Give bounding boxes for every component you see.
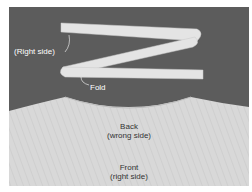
fabric-strip xyxy=(60,23,203,79)
label-fold: Fold xyxy=(90,83,106,92)
label-right-side: (Right side) xyxy=(14,47,55,56)
label-front: Front xyxy=(109,163,149,172)
photo: (Right side) Fold Back (wrong side) Fron… xyxy=(9,7,249,186)
label-back: Back xyxy=(109,122,149,131)
label-front-right-side: (right side) xyxy=(99,172,159,181)
photo-illustration xyxy=(9,7,249,186)
label-back-wrong-side: (wrong side) xyxy=(99,131,159,140)
